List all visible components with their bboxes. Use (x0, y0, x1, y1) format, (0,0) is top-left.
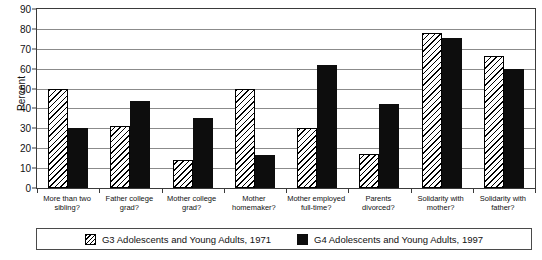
x-axis-category-label-line: mother? (410, 203, 472, 212)
x-axis-category-label-line: Mother employed (285, 194, 347, 203)
x-axis-tick-mark (37, 189, 38, 193)
x-axis-category-label-line: More than two (36, 194, 98, 203)
x-axis-category-label: Solidarity withmother? (410, 194, 472, 212)
gridline (37, 128, 535, 129)
x-axis-tick-mark (162, 189, 163, 193)
y-axis-tick-label: 70 (20, 43, 31, 54)
gridline (37, 148, 535, 149)
chart-legend: G3 Adolescents and Young Adults, 1971 G4… (36, 228, 532, 250)
y-axis-tick-label: 60 (20, 63, 31, 74)
legend-entry-series-a: G3 Adolescents and Young Adults, 1971 (85, 234, 271, 245)
y-axis-tick-label: 30 (20, 123, 31, 134)
bar-chart: Percent 0102030405060708090 More than tw… (0, 0, 542, 260)
x-axis-category-label-line: homemaker? (223, 203, 285, 212)
gridlines (37, 9, 535, 188)
gridline (37, 89, 535, 90)
y-axis-tick-label: 90 (20, 4, 31, 15)
legend-swatch-solid-icon (297, 234, 308, 245)
gridline (37, 108, 535, 109)
legend-label-series-a: G3 Adolescents and Young Adults, 1971 (102, 234, 271, 245)
x-axis-category-label-line: Parents (347, 194, 409, 203)
x-axis-category-label-line: Mother (223, 194, 285, 203)
x-axis-category-label-line: divorced? (347, 203, 409, 212)
y-axis-tick-label: 10 (20, 163, 31, 174)
x-axis-tick-mark (411, 189, 412, 193)
x-axis-category-label: More than twosibling? (36, 194, 98, 212)
y-axis-tick-label: 50 (20, 83, 31, 94)
y-axis-tick-label: 0 (25, 183, 31, 194)
x-axis-category-label-line: Solidarity with (410, 194, 472, 203)
x-axis-category-label-line: grad? (161, 203, 223, 212)
x-axis-labels: More than twosibling?Father collegegrad?… (36, 194, 536, 220)
x-axis-category-label-line: father? (472, 203, 534, 212)
x-axis-tick-mark (224, 189, 225, 193)
legend-swatch-hatched-icon (85, 234, 96, 245)
y-axis-tick-label: 40 (20, 103, 31, 114)
x-axis-category-label: Mother employedfull-time? (285, 194, 347, 212)
legend-label-series-b: G4 Adolescents and Young Adults, 1997 (314, 234, 483, 245)
gridline (37, 168, 535, 169)
legend-entry-series-b: G4 Adolescents and Young Adults, 1997 (297, 234, 483, 245)
x-axis-tick-mark (348, 189, 349, 193)
y-axis-tick-label: 80 (20, 23, 31, 34)
x-axis-category-label: Solidarity withfather? (472, 194, 534, 212)
x-axis-category-label-line: grad? (98, 203, 160, 212)
x-axis-category-label-line: full-time? (285, 203, 347, 212)
x-axis-category-label: Parentsdivorced? (347, 194, 409, 212)
y-axis-tick-label: 20 (20, 143, 31, 154)
gridline (37, 29, 535, 30)
gridline (37, 69, 535, 70)
x-axis-category-label: Father collegegrad? (98, 194, 160, 212)
x-axis-tick-mark (99, 189, 100, 193)
x-axis-category-label-line: Father college (98, 194, 160, 203)
x-axis-category-label: Mother collegegrad? (161, 194, 223, 212)
x-axis-category-label-line: Solidarity with (472, 194, 534, 203)
plot-area (36, 8, 536, 189)
x-axis-tick-mark (286, 189, 287, 193)
x-axis-category-label: Motherhomemaker? (223, 194, 285, 212)
x-axis-category-label-line: Mother college (161, 194, 223, 203)
y-axis-ticks: 0102030405060708090 (0, 8, 36, 189)
x-axis-tick-mark (535, 189, 536, 193)
gridline (37, 49, 535, 50)
x-axis-tick-mark (473, 189, 474, 193)
x-axis-category-label-line: sibling? (36, 203, 98, 212)
